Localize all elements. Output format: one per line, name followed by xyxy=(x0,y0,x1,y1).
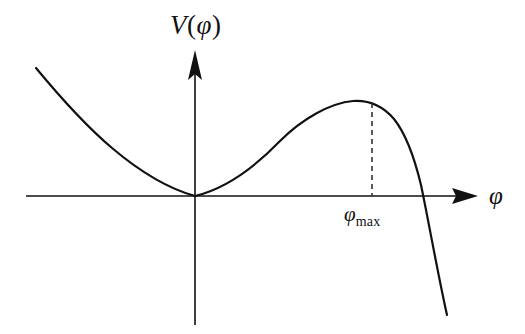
y-axis-label-function: V xyxy=(170,10,187,40)
y-axis-label-close-paren: ) xyxy=(212,10,222,40)
plot-canvas xyxy=(0,0,525,334)
phi-max-label-symbol: φ xyxy=(344,202,356,226)
phi-max-label: φmax xyxy=(344,202,380,230)
y-axis-label-argument: φ xyxy=(197,10,212,40)
x-axis-label: φ xyxy=(489,182,503,210)
potential-plot-figure: V(φ) φ φmax xyxy=(0,0,525,334)
potential-curve xyxy=(36,68,447,315)
y-axis-label: V(φ) xyxy=(170,10,221,41)
y-axis-label-open-paren: ( xyxy=(187,10,197,40)
phi-max-label-subscript: max xyxy=(356,214,381,229)
